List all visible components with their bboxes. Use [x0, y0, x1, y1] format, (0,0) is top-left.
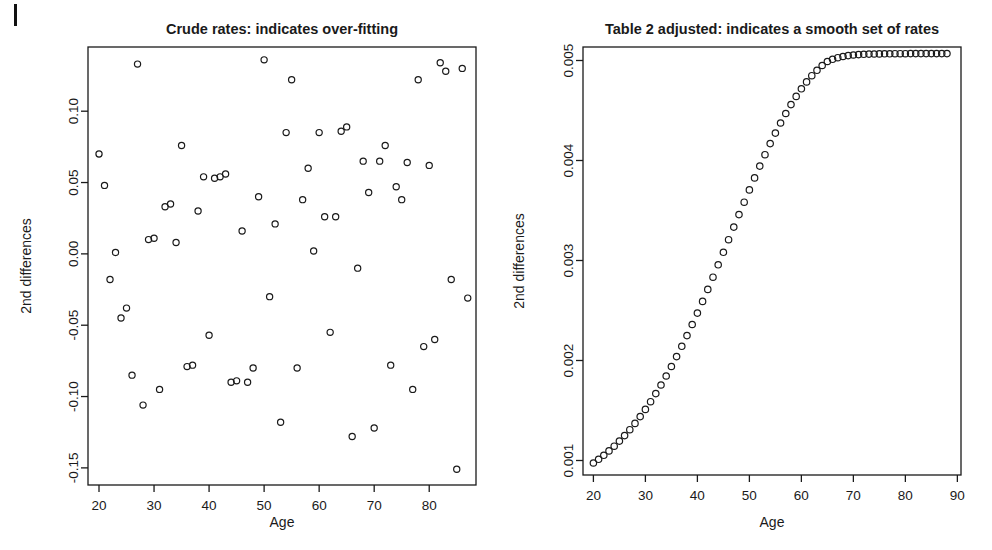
plot-table-2-adjusted: Table 2 adjusted: indicates a smooth set…: [511, 21, 965, 530]
data-point: [679, 343, 685, 349]
y-tick-label-crude-rates-2: 0.00: [66, 241, 81, 267]
y-axis-label-crude-rates: 2nd differences: [18, 218, 34, 313]
data-point: [621, 432, 627, 438]
data-point: [167, 201, 173, 207]
data-point: [129, 372, 135, 378]
data-point: [305, 165, 311, 171]
data-point: [404, 159, 410, 165]
x-tick-label-table-2-adjusted-70: 70: [846, 488, 861, 503]
data-point: [338, 128, 344, 134]
data-point: [344, 124, 350, 130]
x-tick-label-crude-rates-70: 70: [367, 498, 382, 513]
data-point: [694, 310, 700, 316]
data-point: [725, 237, 731, 243]
data-point: [653, 390, 659, 396]
data-point: [134, 61, 140, 67]
data-point: [616, 438, 622, 444]
data-point: [360, 158, 366, 164]
data-point: [382, 142, 388, 148]
data-point: [250, 365, 256, 371]
plot-crude-rates: Crude rates: indicates over-fitting20304…: [18, 21, 476, 530]
data-point: [371, 425, 377, 431]
data-point: [757, 163, 763, 169]
data-point: [647, 399, 653, 405]
data-point: [443, 68, 449, 74]
data-point: [632, 420, 638, 426]
x-tick-label-table-2-adjusted-80: 80: [898, 488, 913, 503]
data-point: [783, 110, 789, 116]
plot-frame-table-2-adjusted: [583, 47, 961, 475]
data-point: [767, 140, 773, 146]
x-tick-label-table-2-adjusted-40: 40: [690, 488, 705, 503]
data-point: [454, 466, 460, 472]
data-point: [426, 162, 432, 168]
data-point: [736, 211, 742, 217]
data-point: [684, 332, 690, 338]
x-tick-label-table-2-adjusted-30: 30: [638, 488, 653, 503]
data-point: [746, 187, 752, 193]
data-point: [222, 171, 228, 177]
data-point: [261, 57, 267, 63]
data-point: [809, 73, 815, 79]
x-axis-label-crude-rates: Age: [270, 514, 295, 530]
data-point: [762, 152, 768, 158]
data-point: [673, 353, 679, 359]
data-point: [668, 363, 674, 369]
data-point: [637, 413, 643, 419]
data-point: [410, 386, 416, 392]
data-point: [245, 379, 251, 385]
data-point: [333, 214, 339, 220]
data-point: [432, 336, 438, 342]
data-point: [689, 321, 695, 327]
data-point: [101, 182, 107, 188]
data-point: [772, 130, 778, 136]
y-tick-label-crude-rates-4: -0.10: [66, 381, 81, 412]
data-point: [710, 274, 716, 280]
data-point: [448, 276, 454, 282]
data-point: [705, 286, 711, 292]
y-tick-label-table-2-adjusted-4: 0.001: [561, 444, 576, 478]
x-tick-label-table-2-adjusted-20: 20: [586, 488, 601, 503]
data-point: [814, 67, 820, 73]
data-point: [112, 249, 118, 255]
data-point: [699, 298, 705, 304]
y-tick-label-crude-rates-5: -0.15: [66, 452, 81, 483]
data-point: [256, 194, 262, 200]
data-point: [311, 248, 317, 254]
x-tick-label-table-2-adjusted-90: 90: [950, 488, 965, 503]
plot-title-table-2-adjusted: Table 2 adjusted: indicates a smooth set…: [605, 21, 939, 37]
data-point: [731, 224, 737, 230]
data-point: [173, 239, 179, 245]
y-tick-label-table-2-adjusted-3: 0.002: [561, 344, 576, 378]
data-point: [415, 77, 421, 83]
data-point: [777, 120, 783, 126]
data-point: [118, 315, 124, 321]
data-point: [366, 189, 372, 195]
data-point: [327, 329, 333, 335]
y-tick-label-table-2-adjusted-0: 0.005: [561, 44, 576, 78]
figure-panel: Crude rates: indicates over-fitting20304…: [0, 0, 992, 550]
data-point: [195, 208, 201, 214]
x-tick-label-crude-rates-30: 30: [147, 498, 162, 513]
data-point: [278, 419, 284, 425]
data-point: [267, 294, 273, 300]
data-point: [798, 86, 804, 92]
data-point: [107, 276, 113, 282]
data-point: [437, 60, 443, 66]
data-point: [377, 158, 383, 164]
data-point: [715, 262, 721, 268]
data-point: [465, 295, 471, 301]
x-tick-label-crude-rates-80: 80: [422, 498, 437, 513]
data-point: [178, 142, 184, 148]
y-tick-label-crude-rates-1: 0.05: [66, 169, 81, 195]
x-tick-label-crude-rates-20: 20: [91, 498, 106, 513]
data-point: [322, 214, 328, 220]
data-points-table-2-adjusted: [590, 50, 950, 466]
y-tick-label-crude-rates-0: 0.10: [66, 98, 81, 124]
data-point: [627, 427, 633, 433]
y-axis-label-table-2-adjusted: 2nd differences: [511, 213, 527, 308]
data-point: [393, 184, 399, 190]
data-point: [300, 197, 306, 203]
data-point: [642, 406, 648, 412]
y-tick-label-table-2-adjusted-1: 0.004: [561, 143, 576, 177]
